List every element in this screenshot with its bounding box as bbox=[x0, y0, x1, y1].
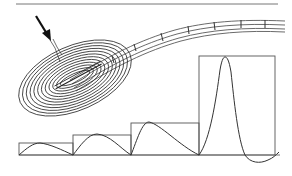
stimulus-step-2 bbox=[73, 135, 131, 155]
response-1 bbox=[19, 143, 73, 155]
receptor-potentials bbox=[19, 57, 279, 162]
pressure-arrow-icon bbox=[36, 16, 51, 41]
response-2 bbox=[73, 134, 131, 155]
stimulus-step-3 bbox=[131, 123, 199, 155]
response-4 bbox=[199, 57, 279, 162]
pressure-point bbox=[50, 39, 62, 62]
stimulus-step-1 bbox=[19, 143, 73, 155]
response-3 bbox=[131, 122, 199, 155]
stimulus-steps bbox=[19, 56, 275, 155]
corpuscle-lamellae bbox=[7, 24, 143, 131]
pacinian-corpuscle-diagram bbox=[0, 0, 292, 176]
nerve-fiber bbox=[70, 20, 285, 91]
stimulus-step-4 bbox=[199, 56, 275, 155]
diagram-canvas bbox=[0, 0, 292, 176]
